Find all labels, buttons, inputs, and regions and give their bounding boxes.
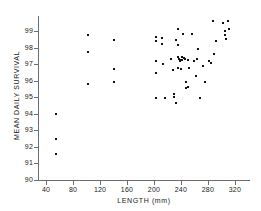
data-point <box>195 75 197 77</box>
x-tick-label: 280 <box>195 186 221 193</box>
data-point <box>173 96 175 98</box>
data-point <box>161 37 163 39</box>
y-tick-label: 91 <box>1 159 33 166</box>
data-point <box>228 28 230 30</box>
data-point <box>161 43 163 45</box>
x-tick <box>73 181 74 185</box>
data-point <box>182 33 184 35</box>
data-point <box>181 59 183 61</box>
data-point <box>177 28 179 30</box>
data-point <box>55 153 57 155</box>
x-tick <box>154 181 155 185</box>
data-point <box>175 39 177 41</box>
data-point <box>155 60 157 62</box>
x-tick-label: 320 <box>222 186 248 193</box>
data-point <box>187 59 189 61</box>
data-point <box>155 40 157 42</box>
data-point <box>225 38 227 40</box>
data-point <box>199 97 201 99</box>
x-tick-label: 240 <box>168 186 194 193</box>
data-point <box>227 20 229 22</box>
x-tick-label: 160 <box>114 186 140 193</box>
data-point <box>170 58 172 60</box>
data-point <box>204 81 206 83</box>
data-point <box>175 102 177 104</box>
x-tick <box>181 181 182 185</box>
data-point <box>215 40 217 42</box>
y-tick <box>34 180 38 181</box>
x-axis-title: LENGTH (mm) <box>38 197 250 204</box>
data-point <box>193 60 195 62</box>
data-point <box>113 39 115 41</box>
data-point <box>172 69 174 71</box>
data-point <box>224 34 226 36</box>
data-point <box>210 62 212 64</box>
x-axis-line <box>38 180 250 181</box>
data-point <box>177 44 179 46</box>
data-point <box>185 81 187 83</box>
data-point <box>188 67 190 69</box>
data-point <box>197 48 199 50</box>
x-tick <box>127 181 128 185</box>
data-point <box>213 53 215 55</box>
data-point <box>177 67 179 69</box>
x-tick <box>100 181 101 185</box>
data-point <box>55 113 57 115</box>
x-tick <box>235 181 236 185</box>
x-tick-label: 120 <box>87 186 113 193</box>
data-point <box>202 65 204 67</box>
x-tick-label: 40 <box>33 186 59 193</box>
x-tick-label: 80 <box>60 186 86 193</box>
data-point <box>180 68 182 70</box>
data-point <box>187 86 189 88</box>
data-point <box>87 34 89 36</box>
scatter-chart-figure: 90919293949596979899 4080120160200240280… <box>0 0 261 211</box>
data-point <box>155 97 157 99</box>
data-point <box>222 22 224 24</box>
data-point <box>155 36 157 38</box>
data-point <box>191 33 193 35</box>
data-point <box>162 63 164 65</box>
plot-area <box>38 18 247 180</box>
data-point <box>87 51 89 53</box>
data-point <box>55 138 57 140</box>
y-tick-label: 90 <box>1 176 33 183</box>
data-point <box>196 58 198 60</box>
x-tick <box>46 181 47 185</box>
data-point <box>164 97 166 99</box>
data-point <box>155 72 157 74</box>
data-point <box>224 30 226 32</box>
y-axis-title: MEAN DAILY SURVIVAL <box>13 36 20 156</box>
data-point <box>113 81 115 83</box>
x-tick-label: 200 <box>141 186 167 193</box>
data-point <box>212 20 214 22</box>
data-point <box>113 68 115 70</box>
data-point <box>184 58 186 60</box>
y-tick-label: 99 <box>1 27 33 34</box>
data-point <box>87 83 89 85</box>
x-tick <box>208 181 209 185</box>
